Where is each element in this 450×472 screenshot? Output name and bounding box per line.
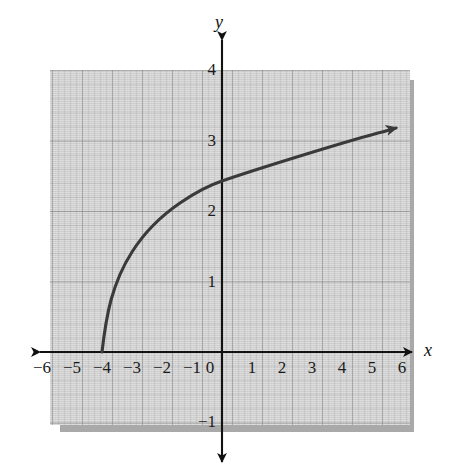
y-axis-label: y [215,12,223,33]
y-tick-label-1: 1 [200,272,216,292]
x-tick-label--4: −4 [90,358,114,378]
x-tick-label--2: −2 [150,358,174,378]
x-tick-label--5: −5 [60,358,84,378]
y-tick-label--1: −1 [188,412,216,432]
x-tick-label--6: −6 [30,358,54,378]
curve-sqrt-x-plus-4 [102,128,396,352]
x-tick-label--3: −3 [120,358,144,378]
y-tick-label-2: 2 [200,201,216,221]
graph-figure: −6 −5 −4 −3 −2 −1 0 1 2 3 4 5 6 4 3 2 1 … [0,0,450,472]
x-axis-label: x [424,340,432,361]
x-tick-label-2: 2 [275,358,289,378]
x-tick-label-1: 1 [245,358,259,378]
x-tick-label-6: 6 [395,358,409,378]
y-tick-label-4: 4 [200,60,216,80]
x-tick-label-0: 0 [203,358,217,378]
x-tick-label-4: 4 [335,358,349,378]
y-tick-label-3: 3 [200,131,216,151]
x-tick-label-3: 3 [305,358,319,378]
x-tick-label-5: 5 [365,358,379,378]
plot-svg [0,0,450,472]
x-tick-label--1: −1 [180,358,204,378]
